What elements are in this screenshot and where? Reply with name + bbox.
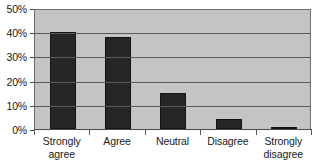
x-tick-mark: [89, 130, 90, 135]
plot-area: [34, 9, 311, 130]
x-tick-mark: [256, 130, 257, 135]
bar[interactable]: [50, 32, 76, 129]
x-axis-label-line: Agree: [89, 135, 144, 148]
x-axis-labels: StronglyagreeAgreeNeutralDisagreeStrongl…: [34, 135, 311, 168]
y-tick-mark: [30, 57, 34, 58]
gridline: [35, 33, 310, 34]
gridline: [35, 57, 310, 58]
y-tick-label: 0%: [12, 125, 27, 135]
y-tick-mark: [30, 106, 34, 107]
y-tick-label: 20%: [7, 77, 27, 87]
bar-slot: [35, 10, 90, 129]
x-tick-mark: [311, 130, 312, 135]
x-axis-label: Stronglyagree: [34, 135, 89, 160]
bar-slot: [90, 10, 145, 129]
x-axis-label-line: Strongly: [34, 135, 89, 148]
x-axis-label-line: Strongly: [256, 135, 311, 148]
bar-chart: 0%10%20%30%40%50% StronglyagreeAgreeNeut…: [0, 0, 318, 168]
bar-slot: [201, 10, 256, 129]
bar[interactable]: [160, 93, 186, 129]
x-axis-label-line: Neutral: [145, 135, 200, 148]
x-axis-label-line: Disagree: [200, 135, 255, 148]
x-axis-label: Stronglydisagree: [256, 135, 311, 160]
x-tick-mark: [34, 130, 35, 135]
y-tick-mark: [30, 9, 34, 10]
bar[interactable]: [105, 37, 131, 129]
bar-slot: [146, 10, 201, 129]
x-tick-mark: [145, 130, 146, 135]
bars-layer: [35, 10, 310, 129]
y-tick-mark: [30, 33, 34, 34]
x-axis-label-line: agree: [34, 148, 89, 161]
y-tick-label: 50%: [7, 4, 27, 14]
gridline: [35, 82, 310, 83]
gridline: [35, 106, 310, 107]
y-tick-label: 40%: [7, 28, 27, 38]
x-axis-label: Neutral: [145, 135, 200, 148]
x-axis-label: Disagree: [200, 135, 255, 148]
bar[interactable]: [216, 119, 242, 129]
y-axis: 0%10%20%30%40%50%: [0, 0, 31, 168]
bar-slot: [257, 10, 312, 129]
y-tick-label: 30%: [7, 52, 27, 62]
x-axis-label: Agree: [89, 135, 144, 148]
x-tick-mark: [200, 130, 201, 135]
y-tick-mark: [30, 82, 34, 83]
x-axis-label-line: disagree: [256, 148, 311, 161]
y-tick-label: 10%: [7, 101, 27, 111]
x-axis-line: [34, 129, 312, 130]
